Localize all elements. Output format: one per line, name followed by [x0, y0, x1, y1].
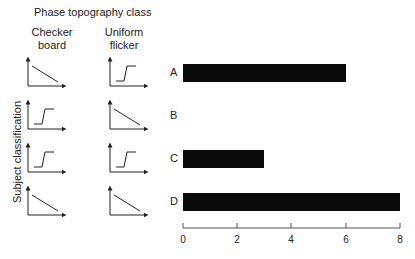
column-header-line: board	[22, 39, 82, 52]
column-header-line: flicker	[94, 39, 154, 52]
column-header-line: Uniform	[94, 26, 154, 39]
row-label: B	[170, 109, 177, 121]
decreasing-line-icon	[24, 185, 68, 217]
x-tick: 8	[390, 234, 410, 245]
decreasing-line-icon	[106, 185, 150, 217]
step-up-icon	[24, 99, 68, 131]
row-label: D	[170, 195, 178, 207]
row-label: A	[170, 66, 177, 78]
column-header-uniform-flicker: Uniform flicker	[94, 26, 154, 52]
decreasing-line-icon	[24, 56, 68, 88]
row-label: C	[170, 152, 178, 164]
bar-a	[183, 64, 346, 82]
bar-c	[183, 150, 264, 168]
column-header-checkerboard: Checker board	[22, 26, 82, 52]
y-axis-label: Subject classification	[11, 97, 23, 207]
bar-d	[183, 193, 400, 211]
step-up-icon	[106, 56, 150, 88]
x-tick: 2	[227, 234, 247, 245]
x-tick: 4	[281, 234, 301, 245]
step-up-icon	[106, 142, 150, 174]
x-axis	[180, 222, 405, 234]
x-tick: 0	[173, 234, 193, 245]
column-header-line: Checker	[22, 26, 82, 39]
decreasing-line-icon	[106, 99, 150, 131]
chart-title: Phase topography class	[34, 6, 151, 18]
x-tick: 6	[336, 234, 356, 245]
step-up-icon	[24, 142, 68, 174]
